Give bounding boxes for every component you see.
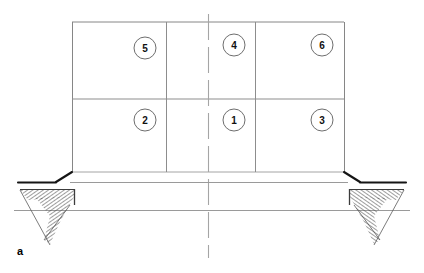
- callout-3[interactable]: 3: [311, 109, 333, 131]
- callout-4[interactable]: 4: [223, 34, 245, 56]
- figure-container: 5 4 6 2 1 3 a: [0, 0, 424, 273]
- callout-5[interactable]: 5: [134, 37, 156, 59]
- callout-2[interactable]: 2: [134, 109, 156, 131]
- callout-1[interactable]: 1: [223, 109, 245, 131]
- callout-6[interactable]: 6: [311, 34, 333, 56]
- callout-label: 1: [231, 115, 237, 126]
- subfigure-label: a: [17, 245, 24, 257]
- section-drawing: 5 4 6 2 1 3 a: [0, 0, 424, 273]
- drawing-background: [0, 0, 424, 273]
- callout-label: 4: [231, 40, 237, 51]
- callout-label: 5: [142, 43, 148, 54]
- callout-label: 6: [319, 40, 325, 51]
- callout-label: 2: [142, 115, 148, 126]
- callout-label: 3: [319, 115, 325, 126]
